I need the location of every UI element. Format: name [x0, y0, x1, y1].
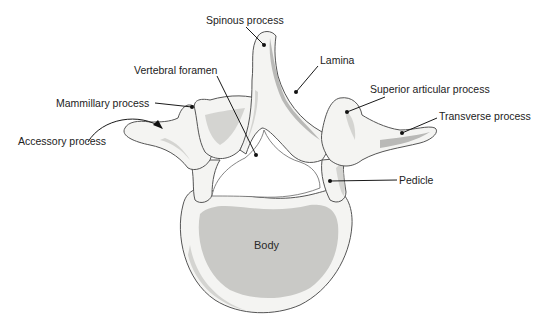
- label-body: Body: [254, 239, 280, 251]
- label-transverse-process: Transverse process: [439, 110, 531, 122]
- label-mammillary-process: Mammillary process: [56, 97, 149, 109]
- label-lamina: Lamina: [320, 54, 355, 66]
- spinous-process-lamina: [240, 32, 328, 163]
- label-pedicle: Pedicle: [399, 174, 434, 186]
- vertebra-diagram: Spinous process Lamina Vertebral foramen…: [0, 0, 545, 321]
- label-superior-articular-process: Superior articular process: [370, 83, 490, 95]
- label-vertebral-foramen: Vertebral foramen: [134, 64, 218, 76]
- label-accessory-process: Accessory process: [18, 135, 106, 147]
- label-spinous-process: Spinous process: [206, 14, 284, 26]
- right-processes: [321, 98, 436, 166]
- vertebra-illustration: Spinous process Lamina Vertebral foramen…: [0, 0, 545, 321]
